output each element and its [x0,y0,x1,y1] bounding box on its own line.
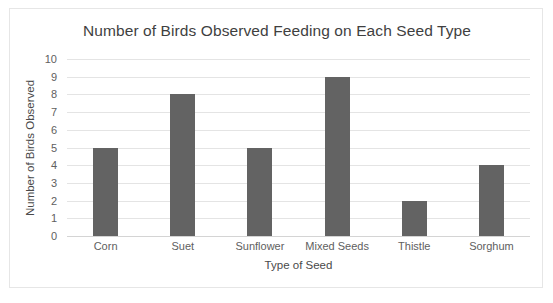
x-axis-tick-label: Mixed Seeds [299,240,376,252]
bar[interactable] [325,77,350,236]
y-axis-tick-label: 6 [51,124,57,135]
bar[interactable] [170,94,195,236]
bar-slot [67,59,144,236]
y-axis-tick-label: 7 [51,107,57,118]
y-axis-tick-label: 0 [51,231,57,242]
bar-slot [453,59,530,236]
y-axis-tick-label: 4 [51,160,57,171]
bar-slot [221,59,298,236]
y-axis-tick-label: 10 [45,54,57,65]
y-axis-tick-label: 3 [51,177,57,188]
x-axis-tick-label: Suet [144,240,221,252]
x-axis-tick-label: Corn [67,240,144,252]
x-axis-tick-label: Sorghum [453,240,530,252]
bar[interactable] [93,148,118,237]
x-axis-tick-label: Thistle [376,240,453,252]
bars-container [67,59,530,236]
y-axis-tick-label: 2 [51,195,57,206]
y-axis-tick-label: 5 [51,142,57,153]
x-axis-tick-labels: CornSuetSunflowerMixed SeedsThistleSorgh… [67,240,530,252]
axis-baseline [67,236,530,237]
chart-title: Number of Birds Observed Feeding on Each… [10,22,544,40]
bar-chart-figure: Number of Birds Observed Feeding on Each… [9,8,543,288]
bar[interactable] [479,165,504,236]
bar[interactable] [402,201,427,236]
y-axis-tick-labels: 109876543210 [10,59,64,236]
x-axis-title: Type of Seed [67,259,530,271]
bar-slot [144,59,221,236]
bar[interactable] [247,148,272,237]
x-axis-tick-label: Sunflower [221,240,298,252]
plot-area [67,59,530,236]
y-axis-tick-label: 1 [51,213,57,224]
y-axis-tick-label: 8 [51,89,57,100]
y-axis-tick-label: 9 [51,71,57,82]
bar-slot [376,59,453,236]
bar-slot [299,59,376,236]
